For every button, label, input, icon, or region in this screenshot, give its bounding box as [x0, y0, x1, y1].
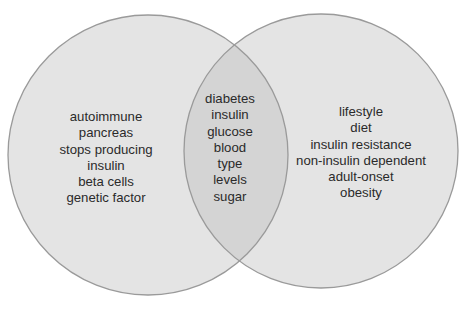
term: diabetes — [205, 91, 255, 107]
term: glucose — [205, 124, 255, 140]
term: stops producing — [59, 142, 152, 158]
term: pancreas — [59, 125, 152, 141]
term: insulin resistance — [296, 137, 426, 153]
intersection-terms: diabetes insulin glucose blood type leve… — [205, 91, 255, 205]
term: adult-onset — [296, 169, 426, 185]
term: genetic factor — [59, 190, 152, 206]
term: non-insulin dependent — [296, 153, 426, 169]
left-set-terms: autoimmune pancreas stops producing insu… — [59, 109, 152, 207]
term: beta cells — [59, 174, 152, 190]
term: levels — [205, 172, 255, 188]
term: blood — [205, 140, 255, 156]
term: obesity — [296, 185, 426, 201]
term: lifestyle — [296, 104, 426, 120]
term: insulin — [205, 107, 255, 123]
term: sugar — [205, 189, 255, 205]
term: type — [205, 156, 255, 172]
term: autoimmune — [59, 109, 152, 125]
right-set-terms: lifestyle diet insulin resistance non-in… — [296, 104, 426, 202]
term: diet — [296, 120, 426, 136]
term: insulin — [59, 158, 152, 174]
